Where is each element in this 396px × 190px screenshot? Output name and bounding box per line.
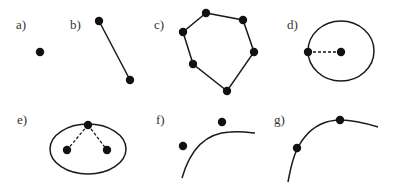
polygon — [183, 13, 254, 91]
point — [84, 121, 92, 129]
panel-e-label: e) — [17, 112, 27, 127]
point — [304, 48, 312, 56]
point — [126, 76, 134, 84]
point — [293, 144, 301, 152]
point — [223, 87, 231, 95]
panel-d: d) — [287, 17, 374, 81]
curve — [182, 132, 255, 178]
dashed-line — [67, 125, 88, 150]
point — [95, 17, 103, 25]
panel-b: b) — [70, 17, 134, 84]
focus-point — [103, 146, 111, 154]
point — [250, 48, 258, 56]
panel-g: g) — [274, 112, 378, 182]
line-segment — [99, 21, 130, 80]
panel-d-label: d) — [287, 17, 298, 32]
panel-g-label: g) — [274, 112, 285, 127]
point — [202, 9, 210, 17]
point — [239, 16, 247, 24]
point — [189, 60, 197, 68]
panel-e: e) — [17, 112, 126, 174]
center-point — [337, 48, 345, 56]
geometry-primitives-diagram: a) b) c) d) e) f) — [0, 0, 396, 190]
ellipse — [50, 124, 126, 174]
curve — [288, 120, 378, 182]
panel-b-label: b) — [70, 17, 81, 32]
panel-c-label: c) — [154, 17, 164, 32]
panel-a: a) — [16, 17, 44, 56]
focus-point — [63, 146, 71, 154]
panel-c: c) — [154, 9, 258, 95]
point — [336, 116, 344, 124]
panel-f: f) — [156, 112, 255, 178]
point — [36, 48, 44, 56]
panel-f-label: f) — [156, 112, 165, 127]
point — [179, 142, 187, 150]
panel-a-label: a) — [16, 17, 26, 32]
point — [179, 28, 187, 36]
point — [218, 118, 226, 126]
dashed-line — [88, 125, 107, 150]
